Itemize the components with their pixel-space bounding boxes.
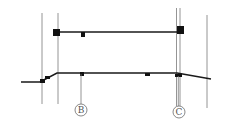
column-block bbox=[177, 26, 184, 34]
vertical-grid-lines bbox=[42, 8, 207, 108]
grid-line-c: C bbox=[173, 76, 185, 118]
column-block bbox=[45, 76, 50, 79]
column-block bbox=[81, 32, 85, 37]
grid-label-b: B bbox=[78, 105, 85, 115]
section-diagram: B C bbox=[0, 0, 226, 126]
column-block bbox=[40, 79, 45, 83]
grid-line-b: B bbox=[75, 74, 87, 116]
column-blocks bbox=[40, 26, 184, 83]
grid-label-c: C bbox=[176, 107, 183, 117]
column-block bbox=[53, 29, 60, 36]
column-block bbox=[145, 73, 150, 76]
